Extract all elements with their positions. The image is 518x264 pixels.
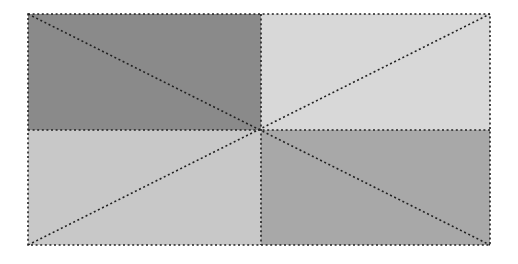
quadrant-diagram xyxy=(0,0,518,264)
quadrant-bottom-right xyxy=(261,130,490,245)
